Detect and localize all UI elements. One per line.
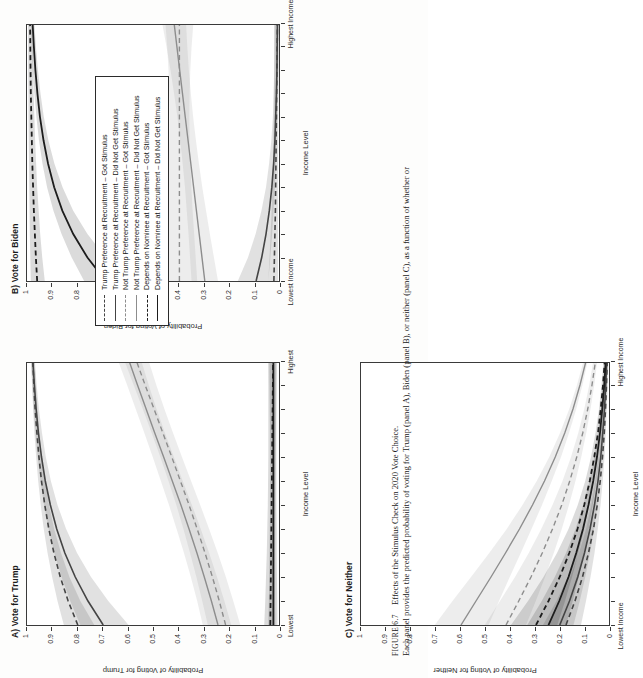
y-tick-label: 1 [22, 290, 29, 312]
x-axis-label: Income Level [631, 472, 640, 517]
y-tickmark [77, 627, 78, 631]
x-tickmark [281, 553, 285, 554]
y-tickmark [280, 283, 281, 287]
y-tick-label: 0.5 [481, 634, 488, 656]
y-tickmark [255, 627, 256, 631]
x-tickmark [611, 385, 615, 386]
x-tickmark [281, 481, 285, 482]
y-tickmark [535, 627, 536, 631]
x-axis-label: Income Level [301, 472, 310, 517]
y-tickmark [585, 627, 586, 631]
y-tickmark [485, 627, 486, 631]
x-tickmark [611, 553, 615, 554]
y-tick-label: 0.7 [98, 634, 105, 656]
x-tick-label: Highest [287, 350, 294, 374]
figure-caption-title: Effects of the Stimulus Check on 2020 Vo… [390, 426, 400, 605]
legend-item-2: Not Trump Preference at Recruitment – Go… [121, 82, 132, 321]
y-axis-label: Probability of Voting for Trump [103, 666, 203, 675]
y-tick-label: 0.4 [174, 634, 181, 656]
y-tick-label: 0.7 [431, 634, 438, 656]
x-tickmark [611, 457, 615, 458]
y-tickmark [26, 283, 27, 287]
x-tick-label: Lowest Income [617, 602, 624, 649]
x-tickmark [281, 529, 285, 530]
x-tickmark [281, 234, 285, 235]
y-tick-label: 0.9 [381, 634, 388, 656]
legend-item-label: Not Trump Preference at Recruitment – Go… [121, 121, 132, 290]
y-tickmark [560, 627, 561, 631]
x-tick-label: Highest Income [287, 0, 294, 48]
y-tickmark [102, 627, 103, 631]
y-tickmark [229, 283, 230, 287]
x-tickmark [611, 577, 615, 578]
legend-item-label: Depends on Nominee at Recruitment – Did … [153, 97, 164, 290]
y-tick-label: 0 [606, 634, 613, 656]
x-tick-label: Lowest Income [287, 258, 294, 305]
y-tickmark [435, 627, 436, 631]
y-tickmark [204, 627, 205, 631]
y-tickmark [77, 283, 78, 287]
legend-item-label: Trump Preference at Recruitment – Got St… [100, 134, 111, 290]
series-legend: Trump Preference at Recruitment – Got St… [95, 76, 169, 326]
figure-caption: FIGURE 6.7 Effects of the Stimulus Check… [390, 16, 413, 656]
y-tick-label: 0.5 [149, 634, 156, 656]
legend-item-5: Depends on Nominee at Recruitment – Did … [153, 82, 164, 321]
x-tickmark [611, 529, 615, 530]
legend-item-label: Not Trump Preference at Recruitment – Di… [132, 95, 143, 290]
legend-item-label: Depends on Nominee at Recruitment – Got … [142, 123, 153, 290]
y-tick-label: 0.6 [124, 634, 131, 656]
y-tick-label: 1 [356, 634, 363, 656]
y-tick-label: 0.2 [556, 634, 563, 656]
y-tick-label: 0.9 [47, 290, 54, 312]
panel-a-vote-for-trump: A) Vote for Trump LowestHighestIncome Le… [0, 338, 340, 678]
y-tick-label: 0.1 [251, 290, 258, 312]
x-tickmark [281, 361, 285, 362]
x-tickmark [281, 211, 285, 212]
panel-b-title: B) Vote for Biden [10, 224, 20, 294]
y-tickmark [280, 627, 281, 631]
x-tickmark [281, 46, 285, 47]
x-tickmark [611, 433, 615, 434]
x-tickmark [281, 281, 285, 282]
y-tickmark [178, 283, 179, 287]
y-tick-label: 0.3 [200, 634, 207, 656]
legend-item-1: Trump Preference at Recruitment – Did No… [111, 82, 122, 321]
x-tickmark [611, 361, 615, 362]
y-tick-label: 0.3 [531, 634, 538, 656]
x-tickmark [281, 117, 285, 118]
x-tickmark [281, 187, 285, 188]
y-tick-label: 0 [276, 634, 283, 656]
y-axis-label: Probability of Voting for Neither [433, 666, 536, 675]
x-tickmark [611, 625, 615, 626]
x-tickmark [611, 409, 615, 410]
y-tick-label: 0.8 [73, 634, 80, 656]
y-tick-label: 0.8 [73, 290, 80, 312]
x-tickmark [281, 625, 285, 626]
y-tick-label: 0 [276, 290, 283, 312]
panel-c-vote-for-neither: C) Vote for Neither Lowest IncomeHighest… [340, 338, 643, 678]
x-tickmark [281, 505, 285, 506]
y-tickmark [255, 283, 256, 287]
y-tick-label: 0.1 [251, 634, 258, 656]
x-tickmark [611, 481, 615, 482]
figure-number: FIGURE 6.7 [391, 614, 400, 656]
y-tickmark [26, 627, 27, 631]
y-tickmark [51, 627, 52, 631]
y-tick-label: 1 [22, 634, 29, 656]
x-tickmark [281, 140, 285, 141]
y-tick-label: 0.9 [47, 634, 54, 656]
legend-item-label: Trump Preference at Recruitment – Did No… [111, 109, 122, 290]
x-tickmark [281, 433, 285, 434]
figure-caption-body: Each panel provides the predicted probab… [401, 167, 411, 656]
y-tickmark [610, 627, 611, 631]
x-tickmark [611, 601, 615, 602]
x-axis-label: Income Level [301, 131, 310, 176]
x-tick-label: Lowest [287, 615, 294, 637]
x-tickmark [281, 23, 285, 24]
y-tick-label: 0.2 [225, 290, 232, 312]
x-tickmark [281, 409, 285, 410]
x-tickmark [281, 164, 285, 165]
y-tickmark [360, 627, 361, 631]
